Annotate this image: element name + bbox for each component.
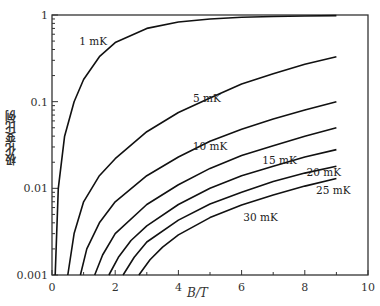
line-chart: 02468100.0010.010.11 1 mK5 mK10 mK15 mK2… bbox=[0, 0, 380, 306]
curve-label: 30 mK bbox=[243, 211, 278, 223]
x-tick-label: 0 bbox=[49, 281, 56, 294]
x-tick-label: 10 bbox=[361, 281, 375, 294]
x-tick-label: 2 bbox=[112, 281, 119, 294]
x-tick-label: 6 bbox=[238, 281, 245, 294]
curve-label: 1 mK bbox=[79, 35, 107, 47]
curve-label: 20 mK bbox=[307, 166, 342, 178]
y-tick-label: 1 bbox=[41, 9, 48, 22]
y-axis-label: 极化变比例 bbox=[4, 110, 20, 165]
curve-label: 25 mK bbox=[316, 184, 351, 196]
curve-label: 15 mK bbox=[262, 154, 297, 166]
x-tick-label: 8 bbox=[301, 281, 308, 294]
curve-label: 10 mK bbox=[193, 140, 228, 152]
curve-label: 5 mK bbox=[193, 92, 221, 104]
x-axis-label: B/T bbox=[187, 286, 208, 300]
y-tick-label: 0.001 bbox=[17, 269, 49, 282]
y-tick-label: 0.01 bbox=[24, 182, 49, 195]
x-tick-label: 4 bbox=[175, 281, 182, 294]
y-tick-label: 0.1 bbox=[31, 96, 49, 109]
